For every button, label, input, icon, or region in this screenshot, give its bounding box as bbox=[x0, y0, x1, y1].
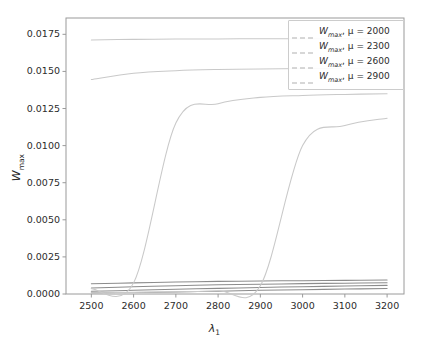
legend-item[interactable]: Wmax, μ = 2000 bbox=[292, 25, 399, 40]
legend-line-swatch bbox=[292, 58, 314, 68]
y-tick-label: 0.0000 bbox=[14, 288, 60, 299]
legend-line-swatch bbox=[292, 43, 314, 53]
legend-item[interactable]: Wmax, μ = 2900 bbox=[292, 70, 399, 85]
series-line bbox=[91, 94, 387, 297]
y-tick-label: 0.0025 bbox=[14, 251, 60, 262]
y-tick-label: 0.0150 bbox=[14, 65, 60, 76]
legend-item[interactable]: Wmax, μ = 2300 bbox=[292, 40, 399, 55]
y-axis-title: Wmax bbox=[10, 138, 25, 198]
y-axis-title-sub: max bbox=[17, 154, 26, 170]
y-tick-label: 0.0050 bbox=[14, 214, 60, 225]
legend-item-label: Wmax, μ = 2900 bbox=[319, 71, 390, 84]
legend-line-swatch bbox=[292, 73, 314, 83]
y-axis-title-base: W bbox=[10, 170, 23, 181]
x-axis-title: λ1 bbox=[0, 322, 429, 337]
y-tick-label: 0.0175 bbox=[14, 28, 60, 39]
x-tick-label: 3200 bbox=[362, 300, 412, 311]
legend-item-label: Wmax, μ = 2300 bbox=[319, 41, 390, 54]
legend-item[interactable]: Wmax, μ = 2600 bbox=[292, 55, 399, 70]
series-line bbox=[91, 283, 387, 288]
legend-item-label: Wmax, μ = 2000 bbox=[319, 26, 390, 39]
x-axis-title-sub: 1 bbox=[215, 328, 220, 337]
series-line bbox=[91, 118, 387, 298]
legend-line-swatch bbox=[292, 28, 314, 38]
legend-item-label: Wmax, μ = 2600 bbox=[319, 56, 390, 69]
chart-legend: Wmax, μ = 2000 Wmax, μ = 2300 Wmax, μ = … bbox=[288, 20, 404, 90]
y-tick-label: 0.0125 bbox=[14, 103, 60, 114]
chart-figure: 0.00000.00250.00500.00750.01000.01250.01… bbox=[0, 0, 429, 345]
